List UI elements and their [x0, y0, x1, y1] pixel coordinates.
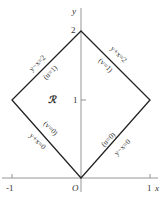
x-tick-label-neg1: -1 [6, 183, 14, 193]
y-tick-label-1: 1 [73, 95, 78, 105]
edge-lower-left-param: (v=0) [42, 119, 61, 138]
diagram-canvas: y 2 1 -1 O 1 x ℛ y−x=2 (u=1) y+x=2 (v=1)… [0, 0, 162, 200]
x-tick-label-1: 1 [147, 183, 152, 193]
origin-label: O [72, 183, 79, 193]
region-label: ℛ [48, 94, 57, 105]
x-axis-label: x [154, 183, 159, 193]
edge-lower-left-equation: y+x=0 [28, 131, 48, 151]
edge-upper-left-param: (u=1) [41, 63, 60, 82]
y-tick-label-2: 2 [71, 25, 76, 35]
edge-upper-right-param: (v=1) [97, 56, 116, 75]
y-axis-label: y [71, 6, 76, 16]
